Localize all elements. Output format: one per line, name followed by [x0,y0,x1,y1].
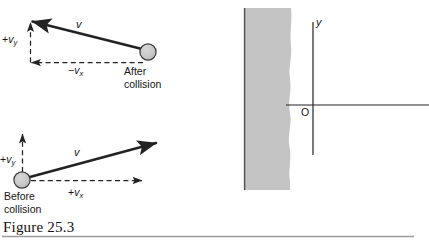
before-collision-state-line1: Before [4,190,35,202]
origin-label: O [301,106,309,118]
after-vy-subscript: y [13,38,17,47]
before-vx-component-label: +vx [68,186,83,200]
after-velocity-vector-label: v [76,18,82,31]
before-collision-ball [14,172,30,188]
before-velocity-vector [28,143,156,178]
after-collision-state-line2: collision [124,78,161,90]
before-collision-diagram [14,134,156,188]
before-collision-state-line2: collision [4,203,41,215]
before-vy-component-label: +vy [0,153,15,167]
after-collision-state-line1: After [124,65,146,77]
figure-drawing-canvas [0,0,429,242]
after-collision-diagram [31,22,157,63]
after-vy-component-label: +vy [2,33,17,47]
physics-figure: v +vy −vx After collision v +vy +vx Befo… [0,0,429,242]
wall-and-axes-diagram [244,8,429,190]
before-vx-subscript: x [79,191,83,200]
after-collision-ball [140,44,156,60]
figure-caption: Figure 25.3 [3,219,74,236]
after-vx-subscript: x [79,69,83,78]
after-velocity-vector [33,22,143,50]
y-axis-label: y [316,16,322,29]
before-velocity-vector-label: v [74,146,80,159]
after-vx-component-label: −vx [68,64,83,78]
wall-slab [244,8,291,190]
before-vy-subscript: y [11,158,15,167]
